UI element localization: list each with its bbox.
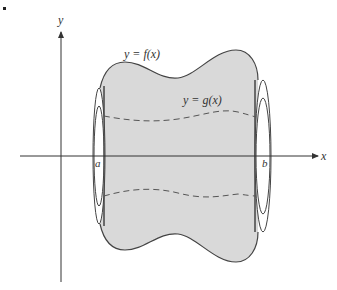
y-axis-label: y	[57, 13, 64, 27]
left-bound-label: a	[95, 157, 101, 169]
x-axis-label: x	[320, 149, 327, 163]
inner-curve-label: y = g(x)	[182, 93, 222, 107]
outer-curve-label: y = f(x)	[123, 47, 160, 61]
washer-diagram: y x y = f(x) y = g(x) a b	[0, 0, 337, 290]
right-bound-label: b	[262, 157, 268, 169]
